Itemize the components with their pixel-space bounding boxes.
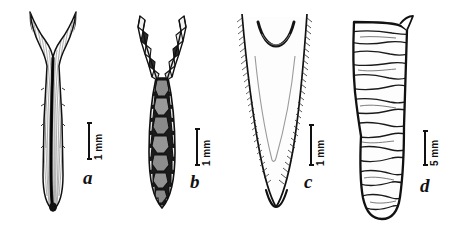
scalebar-d-label: 5 mm <box>429 130 440 166</box>
panel-b-left-horn <box>138 16 159 80</box>
panel-b: 1 mm b <box>110 0 218 230</box>
panel-a-label: a <box>83 168 93 187</box>
scalebar-b-line <box>196 128 198 166</box>
scalebar-d-line <box>424 130 426 166</box>
scalebar-c-label: 1 mm <box>315 124 326 166</box>
panel-c-figure <box>218 0 330 230</box>
panel-b-right-horn <box>165 16 186 80</box>
panel-d-label: d <box>420 176 430 195</box>
illustration-plate: 1 mm a <box>0 0 453 230</box>
scalebar-c-line <box>310 124 312 166</box>
scalebar-a-line <box>88 122 90 160</box>
panel-b-label: b <box>190 172 200 191</box>
panel-c: 1 mm c <box>218 0 330 230</box>
panel-b-figure <box>110 0 218 230</box>
panel-d: 5 mm d <box>330 0 453 230</box>
panel-d-figure <box>330 0 453 230</box>
panel-a-figure <box>0 0 110 230</box>
panel-a: 1 mm a <box>0 0 110 230</box>
scalebar-b-label: 1 mm <box>201 128 212 166</box>
scalebar-a-label: 1 mm <box>93 122 104 160</box>
panel-c-label: c <box>304 172 312 191</box>
